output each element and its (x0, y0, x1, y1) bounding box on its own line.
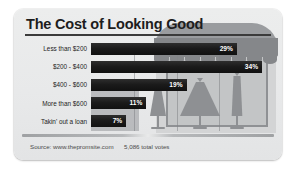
title-underline-rule (25, 34, 271, 36)
bar-category-label: $200 - $400 (24, 63, 91, 70)
bar-value-label: 29% (220, 45, 237, 52)
bar-row: $200 - $40034% (24, 59, 262, 75)
bar-fill: 7% (91, 115, 126, 127)
footer-source-text: Source: www.thepromsite.com 5,086 total … (30, 143, 169, 150)
infographic-card: The Cost of Looking Good Less than $2002… (14, 9, 282, 160)
bar-track: 19% (91, 77, 262, 93)
bar-track: 7% (91, 113, 262, 129)
bar-track: 29% (91, 41, 262, 57)
source-label: Source: www.thepromsite.com (30, 143, 114, 150)
bar-fill: 11% (91, 97, 146, 109)
bar-row: More than $60011% (24, 95, 262, 111)
bar-fill: 34% (91, 61, 262, 73)
bar-category-label: More than $600 (24, 100, 91, 107)
bar-value-label: 11% (129, 99, 146, 106)
bar-track: 34% (91, 59, 262, 75)
bar-track: 11% (91, 95, 262, 111)
bar-row: Less than $20029% (24, 41, 262, 57)
bar-value-label: 19% (169, 81, 186, 88)
bar-category-label: Takin' out a loan (24, 118, 91, 125)
bar-fill: 19% (91, 79, 187, 91)
bar-row: $400 - $60019% (24, 77, 262, 93)
bar-chart: Less than $20029%$200 - $40034%$400 - $6… (24, 41, 262, 133)
bar-value-label: 34% (245, 63, 262, 70)
bar-value-label: 7% (113, 117, 127, 124)
bar-category-label: Less than $200 (24, 45, 91, 52)
bar-row: Takin' out a loan7% (24, 113, 262, 129)
footer-divider (22, 134, 274, 137)
bar-fill: 29% (91, 43, 237, 55)
bar-row-list: Less than $20029%$200 - $40034%$400 - $6… (24, 41, 262, 129)
bar-category-label: $400 - $600 (24, 81, 91, 88)
votes-label: 5,086 total votes (124, 143, 169, 150)
page-title: The Cost of Looking Good (26, 16, 203, 32)
